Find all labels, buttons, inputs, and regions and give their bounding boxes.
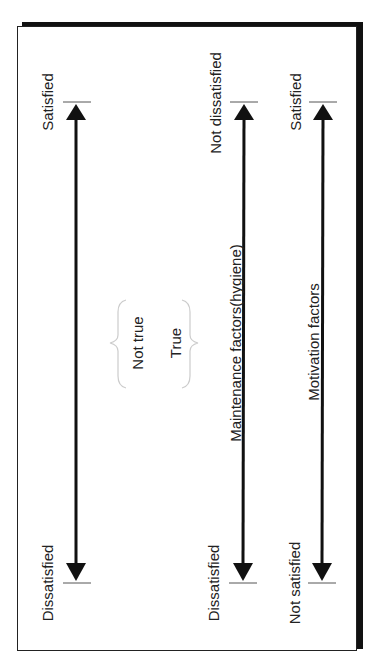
axis2-center-label: Maintenance factors(hygiene) [228, 244, 243, 442]
arrow-down-icon [312, 563, 332, 581]
arrow-up-icon [66, 104, 86, 120]
arrow-down-icon [66, 563, 86, 581]
axis1-top-label: Satisfied [40, 73, 55, 131]
axis-traditional [63, 102, 91, 583]
arrow-down-icon [233, 563, 253, 581]
axis2-top-label: Not dissatisfied [208, 52, 223, 154]
axis2-bottom-label: Dissatisfied [206, 545, 221, 622]
axis3-bottom-label: Not satisfied [287, 542, 302, 625]
left-brace-icon [110, 300, 126, 388]
axis-line [322, 115, 323, 565]
axis3-top-label: Satisfied [288, 73, 303, 131]
true-label: True [168, 328, 183, 358]
not-true-label: Not true [130, 316, 145, 369]
axis1-bottom-label: Dissatisfied [40, 545, 55, 622]
right-brace-icon [182, 300, 198, 388]
arrow-up-icon [313, 104, 333, 120]
axis3-center-label: Motivation factors [306, 283, 321, 401]
arrow-up-icon [234, 104, 254, 120]
